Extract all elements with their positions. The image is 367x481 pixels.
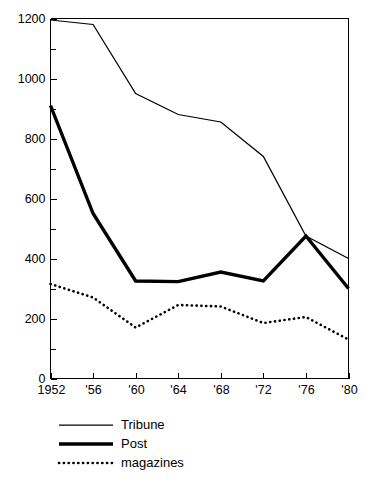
legend-label-tribune: Tribune — [121, 417, 165, 432]
x-tick-label: '76 — [298, 383, 314, 397]
y-tick-label: 1200 — [18, 12, 46, 26]
x-tick-label: '68 — [213, 383, 229, 397]
chart-canvas: 120010008006004002000 1952'56'60'64'68'7… — [0, 0, 367, 481]
line-chart-figure: 120010008006004002000 1952'56'60'64'68'7… — [0, 0, 367, 481]
x-tick-label: 1952 — [38, 383, 66, 397]
x-tick-label: '64 — [170, 383, 186, 397]
figure-background — [0, 0, 367, 481]
x-tick-label: '72 — [255, 383, 271, 397]
x-tick-label: '80 — [341, 383, 357, 397]
legend-label-post: Post — [121, 436, 147, 451]
y-tick-label: 400 — [25, 252, 46, 266]
y-tick-label: 200 — [25, 312, 46, 326]
legend-label-magazines: magazines — [121, 455, 184, 470]
x-tick-label: '56 — [85, 383, 101, 397]
y-tick-label: 600 — [25, 192, 46, 206]
y-tick-label: 1000 — [18, 72, 46, 86]
x-tick-label: '60 — [128, 383, 144, 397]
y-tick-label: 800 — [25, 132, 46, 146]
